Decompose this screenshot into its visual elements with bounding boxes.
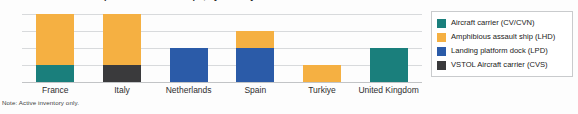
bar-segment[interactable] xyxy=(36,65,74,82)
x-axis-label: United Kingdom xyxy=(346,84,432,96)
legend-item[interactable]: Aircraft carrier (CV/CVN) xyxy=(437,16,567,30)
bar-segment[interactable] xyxy=(303,65,341,82)
bar-segment[interactable] xyxy=(103,14,141,65)
gridline-0 xyxy=(22,82,422,83)
legend-swatch-icon xyxy=(437,19,446,28)
bar-segment[interactable] xyxy=(236,48,274,82)
legend-label: VSTOL Aircraft carrier (CVS) xyxy=(451,61,548,69)
bar-group[interactable] xyxy=(303,65,341,82)
chart-footnote: Note: Active inventory only. xyxy=(2,99,79,106)
bar-segment[interactable] xyxy=(236,31,274,48)
legend-item[interactable]: VSTOL Aircraft carrier (CVS) xyxy=(437,58,567,72)
legend-item[interactable]: Amphibious assault ship (LHD) xyxy=(437,30,567,44)
legend-label: Amphibious assault ship (LHD) xyxy=(451,33,555,41)
legend-label: Aircraft carrier (CV/CVN) xyxy=(451,19,535,27)
bar-segment[interactable] xyxy=(36,14,74,65)
x-axis-labels: FranceItalyNetherlandsSpainTurkiyeUnited… xyxy=(22,84,422,96)
chart-title: Aircraft carriers and amphibious assault… xyxy=(0,0,578,2)
bar-group[interactable] xyxy=(370,48,408,82)
bar-segment[interactable] xyxy=(170,48,208,82)
legend-swatch-icon xyxy=(437,33,446,42)
bar-group[interactable] xyxy=(170,48,208,82)
legend-item[interactable]: Landing platform dock (LPD) xyxy=(437,44,567,58)
chart-figure: Aircraft carriers and amphibious assault… xyxy=(0,0,578,114)
bar-group[interactable] xyxy=(103,14,141,82)
legend-label: Landing platform dock (LPD) xyxy=(451,47,548,55)
bar-series-container xyxy=(22,14,422,82)
bar-group[interactable] xyxy=(236,31,274,82)
bar-segment[interactable] xyxy=(370,48,408,82)
bar-segment[interactable] xyxy=(103,65,141,82)
chart-legend: Aircraft carrier (CV/CVN)Amphibious assa… xyxy=(431,11,573,77)
legend-swatch-icon xyxy=(437,47,446,56)
bar-group[interactable] xyxy=(36,14,74,82)
legend-swatch-icon xyxy=(437,61,446,70)
